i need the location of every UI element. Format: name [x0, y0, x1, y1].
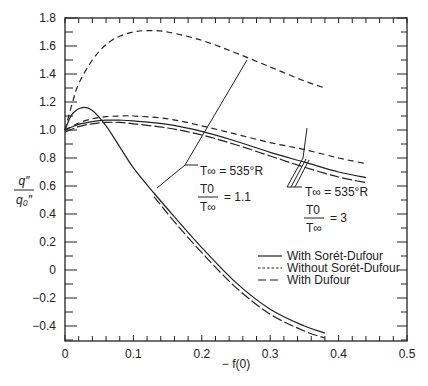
y-tick-label: −0.4 [32, 319, 56, 333]
svg-text:T∞ = 535°R: T∞ = 535°R [200, 164, 263, 178]
x-tick-label: 0.1 [125, 347, 142, 361]
x-tick-label: 0.5 [399, 347, 416, 361]
curve-dashed [65, 116, 366, 164]
svg-text:q″: q″ [19, 174, 31, 188]
y-tick-label: 0.6 [39, 179, 56, 193]
y-tick-label: 1.8 [39, 11, 56, 25]
legend-item-with-dufour: With Dufour [287, 273, 350, 287]
svg-text:T∞ = 535°R: T∞ = 535°R [305, 185, 368, 199]
x-tick-label: 0.3 [262, 347, 279, 361]
curve-solid [65, 107, 325, 333]
svg-text:T∞: T∞ [306, 221, 322, 235]
svg-text:T∞: T∞ [200, 200, 216, 214]
svg-text:q₀″: q₀″ [16, 193, 33, 207]
y-tick-label: −0.2 [32, 291, 56, 305]
x-tick-label: 0.2 [193, 347, 210, 361]
x-axis-label: − f(0) [222, 357, 250, 371]
chart: 00.10.20.30.40.5−0.4−0.200.20.40.60.81.0… [0, 0, 428, 386]
x-tick-label: 0 [62, 347, 69, 361]
axis-ticks [65, 18, 407, 341]
y-tick-label: 0.8 [39, 151, 56, 165]
y-tick-label: 0 [49, 263, 56, 277]
curve-dashed [65, 31, 325, 130]
annotation-ratio-1.1: T∞ = 535°R T0 T∞ = 1.1 [198, 164, 263, 214]
annotation-ratio-3: T∞ = 535°R T0 T∞ = 3 [304, 185, 368, 235]
plot-frame [65, 18, 407, 341]
y-tick-label: 1.0 [39, 123, 56, 137]
y-tick-label: 1.2 [39, 95, 56, 109]
y-tick-label: 0.2 [39, 235, 56, 249]
y-tick-label: 1.4 [39, 67, 56, 81]
y-tick-label: 0.4 [39, 207, 56, 221]
svg-text:T0: T0 [306, 203, 320, 217]
x-tick-label: 0.4 [330, 347, 347, 361]
y-tick-label: 1.6 [39, 39, 56, 53]
svg-text:T0: T0 [200, 182, 214, 196]
svg-text:= 1.1: = 1.1 [224, 190, 251, 204]
y-axis-label: q″ q₀″ [14, 174, 34, 207]
legend: With Sorét-Dufour Without Sorét-Dufour W… [258, 249, 400, 287]
svg-text:= 3: = 3 [330, 211, 347, 225]
